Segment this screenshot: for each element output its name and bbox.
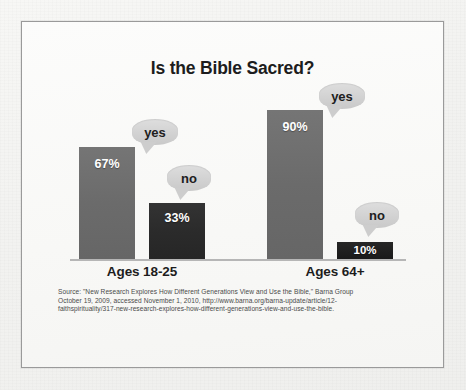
callout-tail-icon <box>171 188 190 200</box>
callout-tail-icon <box>323 106 342 118</box>
callout-bubble-no-ages-18-25: no <box>167 165 211 191</box>
bar-ages-64-plus-yes[interactable]: 90% <box>267 110 323 259</box>
category-label-ages-18-25: Ages 18-25 <box>67 264 217 279</box>
axis-baseline <box>70 259 406 261</box>
bar-ages-18-25-yes[interactable]: 67% <box>79 147 135 259</box>
source-citation: Source: "New Research Explores How Diffe… <box>58 288 410 314</box>
chart-frame: Is the Bible Sacred? 67% 33% Ages 18-25 … <box>21 21 444 368</box>
source-line-1: Source: "New Research Explores How Diffe… <box>58 288 410 297</box>
bar-value-label: 67% <box>79 157 135 171</box>
callout-tail-icon <box>359 225 378 237</box>
callout-bubble-yes-ages-64-plus: yes <box>319 83 365 109</box>
bar-value-label: 33% <box>149 211 205 225</box>
category-label-ages-64-plus: Ages 64+ <box>260 264 410 279</box>
callout-tail-icon <box>137 142 156 154</box>
callout-bubble-yes-ages-18-25: yes <box>132 119 178 145</box>
scanned-page: Is the Bible Sacred? 67% 33% Ages 18-25 … <box>0 0 466 390</box>
bar-value-label: 10% <box>337 244 393 256</box>
source-line-3: faithspirituality/317-new-research-explo… <box>58 305 410 314</box>
bar-ages-64-plus-no[interactable]: 10% <box>337 242 393 259</box>
bar-ages-18-25-no[interactable]: 33% <box>149 203 205 259</box>
callout-bubble-no-ages-64-plus: no <box>355 202 399 228</box>
plot-area: 67% 33% Ages 18-25 90% 10% Ages 64+ yes <box>22 22 443 367</box>
bar-value-label: 90% <box>267 120 323 134</box>
source-line-2: October 19, 2009, accessed November 1, 2… <box>58 297 410 306</box>
